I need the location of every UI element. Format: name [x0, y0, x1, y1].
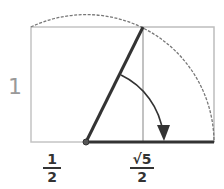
golden-arc [31, 15, 214, 142]
root5-numerator: √5 [132, 152, 151, 166]
diagonal-segment [86, 27, 143, 142]
golden-ratio-figure [0, 0, 224, 189]
extension-rectangle [143, 27, 214, 142]
center-point [83, 139, 89, 145]
half-numerator: 1 [47, 152, 57, 166]
root5-denominator: 2 [137, 170, 147, 184]
half-denominator: 2 [47, 170, 57, 184]
half-label: 1 2 [43, 152, 61, 184]
height-label: 1 [8, 74, 22, 99]
root5-label: √5 2 [130, 152, 154, 184]
arrowhead-icon [157, 125, 170, 141]
unit-square [31, 27, 143, 142]
rotation-arrow [121, 75, 163, 133]
